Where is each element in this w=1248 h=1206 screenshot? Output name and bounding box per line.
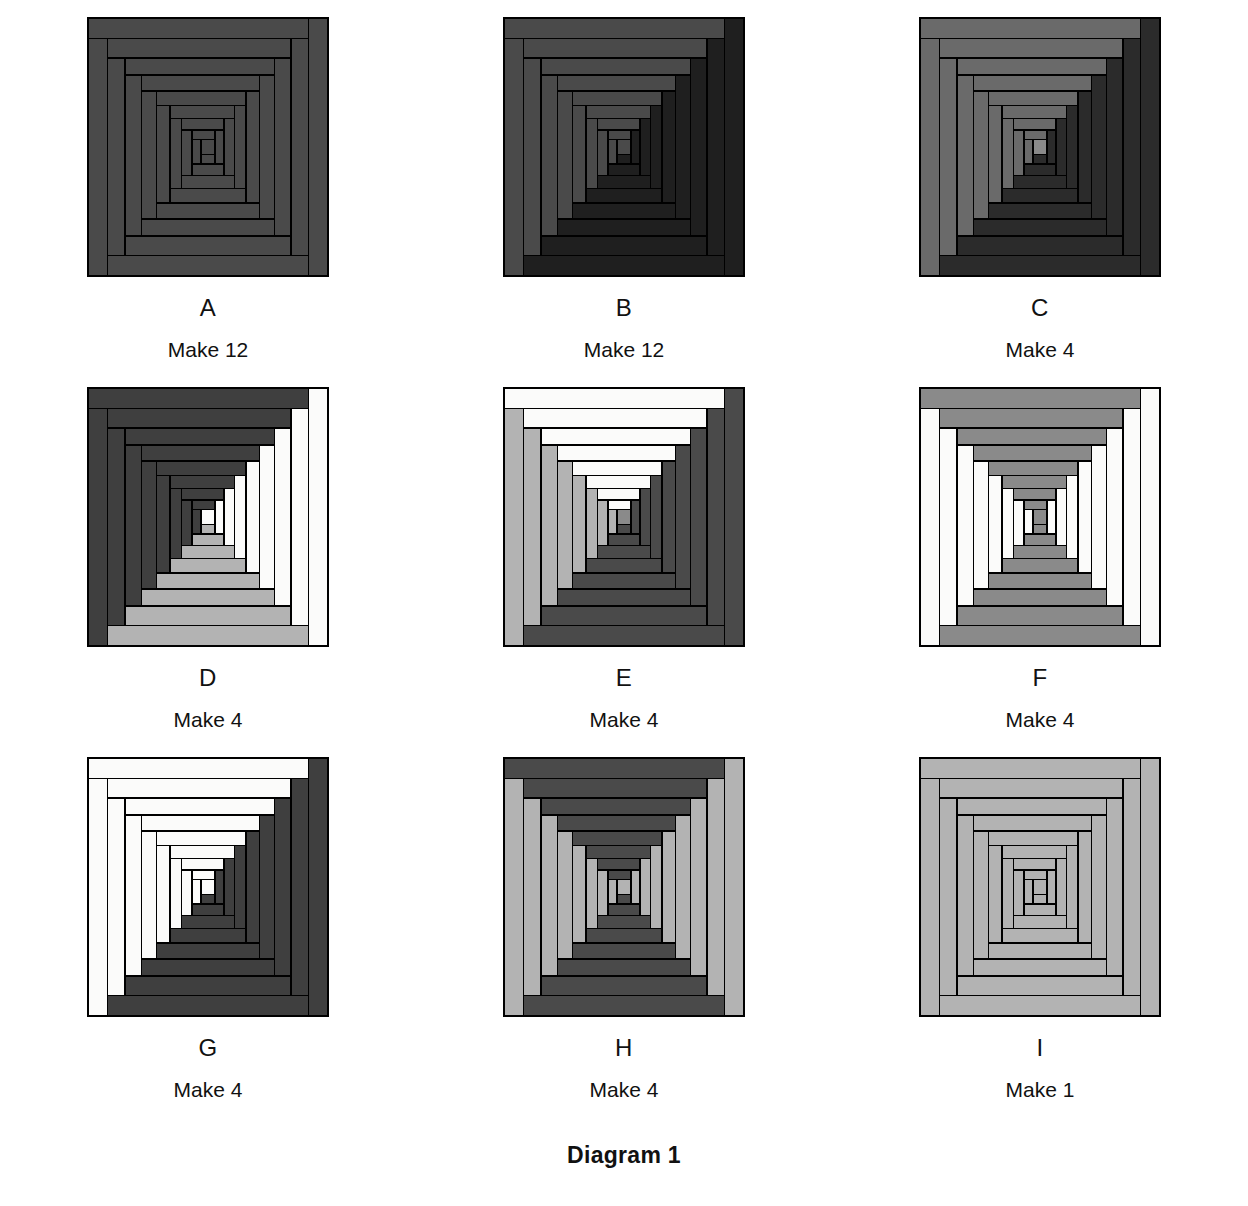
diagram-sheet: AMake 12BMake 12CMake 4DMake 4EMake 4FMa… (0, 0, 1248, 1206)
log-left-4 (988, 846, 1001, 943)
log-right-2 (1056, 118, 1066, 175)
block-grid: AMake 12BMake 12CMake 4DMake 4EMake 4FMa… (0, 16, 1248, 1126)
log-bottom-8 (939, 255, 1140, 276)
log-top-5 (974, 445, 1092, 461)
log-bottom-2 (192, 534, 224, 545)
log-bottom-1 (201, 895, 215, 905)
log-left-1 (1024, 509, 1033, 534)
log-right-8 (725, 18, 744, 276)
log-bottom-1 (1033, 525, 1047, 535)
log-top-6 (125, 798, 274, 816)
log-left-4 (572, 846, 585, 943)
log-right-6 (274, 58, 290, 237)
log-left-5 (558, 831, 573, 958)
block-cell-b: BMake 12 (416, 16, 832, 386)
log-top-7 (107, 409, 290, 428)
log-bottom-5 (572, 943, 675, 959)
log-top-7 (939, 779, 1122, 798)
log-bottom-7 (541, 976, 707, 995)
log-left-6 (541, 75, 557, 236)
log-bottom-5 (572, 203, 675, 219)
log-left-5 (142, 461, 157, 588)
log-bottom-2 (608, 534, 640, 545)
log-top-3 (586, 476, 651, 489)
log-bottom-6 (974, 589, 1107, 607)
log-top-3 (586, 846, 651, 859)
log-bottom-1 (201, 525, 215, 535)
block-letter-c: C (1031, 296, 1049, 320)
log-bottom-7 (541, 236, 707, 255)
log-top-1 (192, 870, 215, 880)
log-top-2 (598, 858, 640, 869)
log-bottom-1 (201, 155, 215, 165)
log-top-6 (541, 58, 690, 76)
log-left-4 (572, 476, 585, 573)
log-bottom-2 (192, 904, 224, 915)
log-left-2 (1014, 130, 1024, 176)
block-make-count-i: Make 1 (1006, 1079, 1075, 1100)
log-top-1 (1024, 870, 1047, 880)
log-left-5 (974, 461, 989, 588)
log-top-6 (957, 428, 1106, 446)
log-right-1 (631, 500, 640, 535)
log-right-3 (1066, 846, 1078, 929)
log-left-2 (1014, 870, 1024, 916)
log-top-5 (558, 815, 676, 831)
block-letter-a: A (200, 296, 217, 320)
log-bottom-2 (608, 164, 640, 175)
log-bottom-6 (142, 219, 275, 237)
log-bottom-7 (957, 236, 1123, 255)
log-top-5 (558, 445, 676, 461)
block-letter-h: H (615, 1036, 633, 1060)
log-right-8 (309, 18, 328, 276)
block-g-art (86, 756, 330, 1018)
log-bottom-5 (988, 573, 1091, 589)
log-bottom-6 (142, 589, 275, 607)
log-left-8 (88, 409, 107, 646)
log-right-2 (1056, 488, 1066, 545)
log-top-1 (608, 500, 631, 510)
log-bottom-2 (1024, 164, 1056, 175)
log-right-1 (631, 130, 640, 165)
log-top-6 (541, 798, 690, 816)
log-right-1 (1047, 870, 1056, 905)
block-cell-f: FMake 4 (832, 386, 1248, 756)
log-left-1 (608, 879, 617, 904)
log-bottom-1 (1033, 895, 1047, 905)
figure-caption: Diagram 1 (0, 1142, 1248, 1169)
log-right-6 (690, 58, 706, 237)
log-right-7 (707, 39, 725, 256)
log-right-3 (650, 846, 662, 929)
log-top-2 (598, 118, 640, 129)
log-right-8 (725, 758, 744, 1016)
log-right-7 (707, 779, 725, 996)
log-top-8 (504, 18, 725, 39)
log-left-8 (88, 779, 107, 1016)
log-left-4 (156, 846, 169, 943)
log-left-1 (192, 509, 201, 534)
log-bottom-3 (1014, 546, 1067, 559)
log-left-2 (182, 130, 192, 176)
log-bottom-7 (125, 976, 291, 995)
log-top-4 (988, 831, 1078, 845)
log-right-8 (309, 388, 328, 646)
block-cell-d: DMake 4 (0, 386, 416, 756)
center-square (617, 879, 631, 894)
log-bottom-7 (541, 606, 707, 625)
log-left-3 (1002, 118, 1014, 188)
log-bottom-8 (107, 255, 308, 276)
block-make-count-h: Make 4 (590, 1079, 659, 1100)
log-left-1 (608, 139, 617, 164)
log-right-3 (650, 476, 662, 559)
log-right-5 (1092, 445, 1107, 588)
log-left-6 (125, 75, 141, 236)
log-left-8 (920, 779, 939, 1016)
log-left-3 (170, 858, 182, 928)
log-left-8 (88, 39, 107, 276)
log-right-7 (291, 39, 309, 256)
log-bottom-3 (182, 916, 235, 929)
block-f-art (918, 386, 1162, 648)
center-square (1033, 879, 1047, 894)
block-make-count-e: Make 4 (590, 709, 659, 730)
log-bottom-8 (939, 995, 1140, 1016)
